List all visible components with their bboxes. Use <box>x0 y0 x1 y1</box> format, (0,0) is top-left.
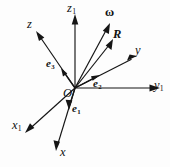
z-axis-rotating-arrowhead <box>36 31 44 41</box>
omega-arrowhead <box>103 23 110 34</box>
vector-y1-axis-fixed <box>75 85 160 92</box>
vector-diagram-canvas <box>0 0 170 167</box>
label-x1-axis-fixed: x1 <box>12 119 22 133</box>
label-x-axis-rotating: x <box>60 146 66 159</box>
label-e3-unit: e3 <box>46 58 55 71</box>
vector-z1-axis-fixed <box>72 14 79 88</box>
label-omega: ω <box>105 6 114 19</box>
label-origin: O <box>63 87 72 100</box>
vector-diagram-figure: z z1 ω R y y1 O e3 e2 e1 x1 x <box>0 0 170 167</box>
x1-axis-fixed-arrowhead <box>25 123 34 133</box>
vector-e3-unit <box>61 68 75 88</box>
label-z1-axis-fixed: z1 <box>67 2 76 16</box>
label-y1-axis-fixed: y1 <box>154 79 164 93</box>
label-R-vector: R <box>113 28 121 41</box>
label-z-axis-rotating: z <box>27 18 32 31</box>
label-e2-unit: e2 <box>93 78 102 91</box>
label-e1-unit: e1 <box>72 103 81 116</box>
label-y-axis-rotating: y <box>135 44 141 57</box>
